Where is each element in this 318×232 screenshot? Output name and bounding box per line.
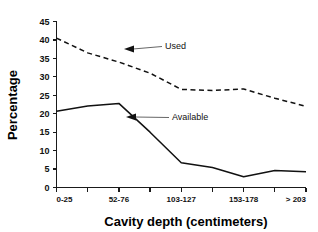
annotation-leader-line xyxy=(135,117,169,118)
annotation-arrowhead xyxy=(124,46,134,53)
y-tick-label: 35 xyxy=(39,54,49,64)
line-chart: Percentage Cavity depth (centimeters) 05… xyxy=(0,0,318,232)
x-axis-title: Cavity depth (centimeters) xyxy=(104,214,267,229)
y-tick-label: 20 xyxy=(39,109,49,119)
series-annotation-label: Available xyxy=(172,112,208,122)
x-tick-label: 52-76 xyxy=(109,195,130,204)
x-tick-label: 153-178 xyxy=(229,195,259,204)
series-layer xyxy=(57,38,307,177)
y-tick-label: 5 xyxy=(44,164,49,174)
y-axis-title: Percentage xyxy=(5,70,20,140)
annotation-leader-line xyxy=(133,47,162,50)
y-tick-label: 10 xyxy=(39,146,49,156)
y-tick-label: 0 xyxy=(44,183,49,193)
series-annotation-label: Used xyxy=(165,41,186,51)
series-annotation: Used xyxy=(124,41,186,52)
annotation-layer: UsedAvailable xyxy=(124,41,208,122)
y-tick-label: 25 xyxy=(39,91,49,101)
x-tick-label: > 203 xyxy=(286,195,307,204)
y-axis-ticks: 051015202530354045 xyxy=(39,17,56,193)
x-tick-label: 0-25 xyxy=(57,195,74,204)
x-tick-label: 103-127 xyxy=(167,195,197,204)
y-tick-label: 40 xyxy=(39,35,49,45)
y-tick-label: 30 xyxy=(39,72,49,82)
y-tick-label: 45 xyxy=(39,17,49,27)
x-axis-ticks: 0-2552-76103-127153-178> 203 xyxy=(57,188,307,204)
y-tick-label: 15 xyxy=(39,127,49,137)
chart-figure: Percentage Cavity depth (centimeters) 05… xyxy=(0,0,318,232)
